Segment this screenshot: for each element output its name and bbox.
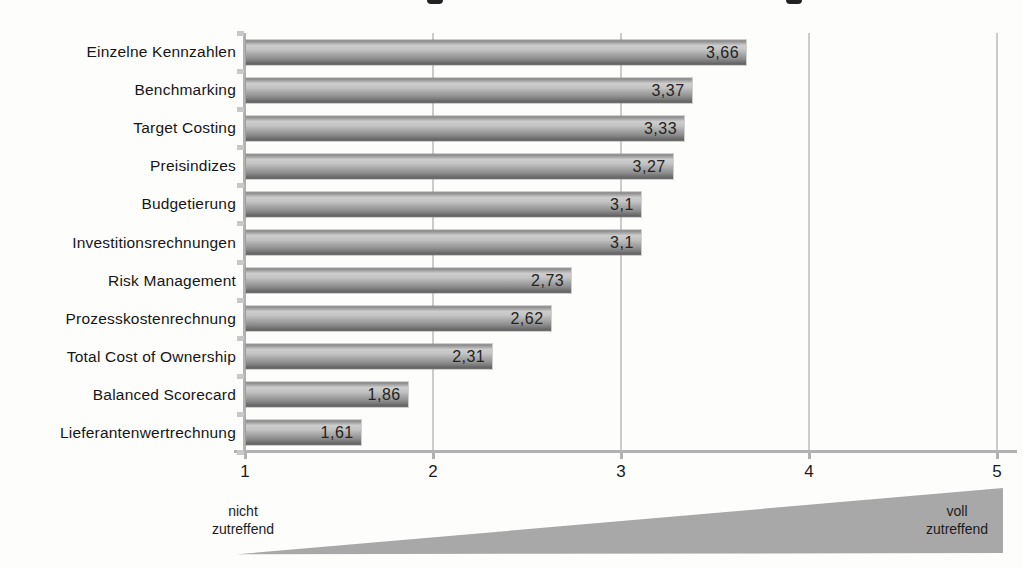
bar: 2,73 — [246, 268, 571, 293]
bar-row: Total Cost of Ownership2,31 — [0, 338, 1023, 376]
y-axis-tick — [237, 183, 244, 188]
bar-track: 3,1 — [246, 230, 998, 255]
bar-track: 1,61 — [246, 420, 998, 445]
x-axis-tick — [620, 453, 623, 459]
y-axis-tick — [237, 298, 244, 303]
bar: 2,62 — [246, 306, 551, 331]
bar-value-label: 3,66 — [706, 40, 739, 65]
bar-track: 3,27 — [246, 154, 998, 179]
x-tick-label: 5 — [977, 462, 1017, 482]
y-axis-tick — [237, 145, 244, 150]
category-label: Investitionsrechnungen — [0, 234, 245, 252]
y-axis-tick — [237, 412, 244, 417]
cropped-title-fragment — [427, 0, 443, 4]
bar-track: 2,73 — [246, 268, 998, 293]
bar: 3,27 — [246, 154, 673, 179]
y-axis-tick — [237, 31, 244, 36]
category-label: Total Cost of Ownership — [0, 348, 245, 366]
scale-max-label: voll zutreffend — [902, 502, 1012, 538]
y-axis-tick — [237, 374, 244, 379]
bar-track: 3,33 — [246, 116, 998, 141]
category-label: Benchmarking — [0, 81, 245, 99]
bar-row: Benchmarking3,37 — [0, 71, 1023, 109]
bar: 2,31 — [246, 344, 492, 369]
bar-value-label: 2,62 — [510, 306, 543, 331]
x-tick-label: 3 — [601, 462, 641, 482]
bar-row: Balanced Scorecard1,86 — [0, 376, 1023, 414]
x-axis-tick — [996, 453, 999, 459]
bar-value-label: 3,37 — [651, 78, 684, 103]
bar-row: Target Costing3,33 — [0, 109, 1023, 147]
bar: 3,1 — [246, 192, 641, 217]
x-axis-tick — [808, 453, 811, 459]
y-axis-tick — [237, 69, 244, 74]
category-label: Preisindizes — [0, 157, 245, 175]
bar-row: Prozesskostenrechnung2,62 — [0, 300, 1023, 338]
bar-row: Einzelne Kennzahlen3,66 — [0, 33, 1023, 71]
y-axis-tick — [237, 450, 244, 455]
bar-value-label: 3,1 — [610, 230, 634, 255]
bar: 3,1 — [246, 230, 641, 255]
bar-track: 2,31 — [246, 344, 998, 369]
bar-row: Lieferantenwertrechnung1,61 — [0, 414, 1023, 452]
bar: 1,86 — [246, 382, 408, 407]
bar: 1,61 — [246, 420, 361, 445]
x-tick-label: 2 — [413, 462, 453, 482]
category-label: Balanced Scorecard — [0, 386, 245, 404]
bar-value-label: 1,61 — [321, 420, 354, 445]
x-tick-label: 1 — [225, 462, 265, 482]
x-axis-tick — [244, 453, 247, 459]
category-label: Budgetierung — [0, 195, 245, 213]
bar-row: Budgetierung3,1 — [0, 185, 1023, 223]
bar-track: 3,37 — [246, 78, 998, 103]
bar-rows: Einzelne Kennzahlen3,66Benchmarking3,37T… — [0, 33, 1023, 452]
y-axis-tick — [237, 260, 244, 265]
bar: 3,37 — [246, 78, 692, 103]
bar-value-label: 1,86 — [368, 382, 401, 407]
category-label: Prozesskostenrechnung — [0, 310, 245, 328]
bar-value-label: 3,1 — [610, 192, 634, 217]
bar-row: Investitionsrechnungen3,1 — [0, 223, 1023, 261]
bar-value-label: 2,31 — [452, 344, 485, 369]
bar-track: 3,66 — [246, 40, 998, 65]
bar-track: 1,86 — [246, 382, 998, 407]
x-tick-label: 4 — [789, 462, 829, 482]
bar-value-label: 3,33 — [644, 116, 677, 141]
category-label: Target Costing — [0, 119, 245, 137]
bar-row: Risk Management2,73 — [0, 262, 1023, 300]
y-axis-tick — [237, 107, 244, 112]
scale-wedge-triangle — [237, 488, 1003, 555]
bar-row: Preisindizes3,27 — [0, 147, 1023, 185]
cropped-title-fragment — [786, 0, 802, 4]
bar-value-label: 2,73 — [531, 268, 564, 293]
bar-track: 2,62 — [246, 306, 998, 331]
x-axis-line — [234, 450, 1017, 453]
bar: 3,33 — [246, 116, 684, 141]
category-label: Risk Management — [0, 272, 245, 290]
y-axis-tick — [237, 221, 244, 226]
y-axis-tick — [237, 336, 244, 341]
bar-track: 3,1 — [246, 192, 998, 217]
category-label: Lieferantenwertrechnung — [0, 424, 245, 442]
bar-value-label: 3,27 — [633, 154, 666, 179]
bar: 3,66 — [246, 40, 746, 65]
category-label: Einzelne Kennzahlen — [0, 43, 245, 61]
x-axis-tick — [432, 453, 435, 459]
chart-figure: Einzelne Kennzahlen3,66Benchmarking3,37T… — [0, 0, 1023, 569]
scale-min-label: nicht zutreffend — [183, 502, 303, 538]
